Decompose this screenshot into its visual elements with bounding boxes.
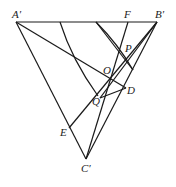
arc-outer	[60, 22, 98, 96]
label-e: E	[59, 126, 67, 138]
label-f: F	[123, 8, 131, 20]
label-c-prime: C′	[81, 162, 91, 174]
line-b-e	[69, 22, 157, 128]
label-p: P	[124, 42, 132, 54]
label-q: Q	[92, 95, 100, 107]
geometry-diagram: A′ B′ F P O D Q E C′	[0, 0, 176, 187]
label-b-prime: B′	[155, 8, 165, 20]
label-d: D	[126, 84, 135, 96]
label-o: O	[103, 64, 111, 76]
label-a-prime: A′	[11, 8, 22, 20]
